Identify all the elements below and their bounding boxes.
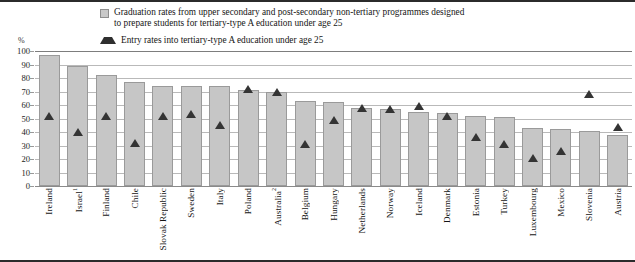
x-axis-label-turkey: Turkey [491,188,518,215]
x-axis-label-chile: Chile [121,188,148,208]
marker-entry-rate[interactable] [329,116,339,124]
marker-entry-rate[interactable] [130,139,140,147]
bar-graduation-rate[interactable] [67,66,88,186]
x-axis-label-israel: Israel1 [64,188,91,212]
y-axis-tick-dash-60 [29,105,34,106]
y-axis-tick-dash-50 [29,119,34,120]
bar-column[interactable] [292,51,319,186]
marker-entry-rate[interactable] [101,112,111,120]
y-axis-tick-dash-40 [29,132,34,133]
bar-graduation-rate[interactable] [607,135,628,186]
legend-label-entry-rates: Entry rates into tertiary-type A educati… [121,35,323,46]
marker-entry-rate[interactable] [73,128,83,136]
y-axis-tick-dash-10 [29,173,34,174]
bar-graduation-rate[interactable] [550,129,571,186]
x-axis-label-ireland: Ireland [36,188,63,215]
bar-column[interactable] [491,51,518,186]
legend-label-graduation-rates-line1: Graduation rates from upper secondary an… [114,7,464,17]
marker-entry-rate[interactable] [272,88,282,96]
bar-graduation-rate[interactable] [465,116,486,186]
bar-column[interactable] [235,51,262,186]
x-axis-label-italy: Italy [206,188,233,205]
bar-column[interactable] [149,51,176,186]
gridline-0: 0 [35,186,632,187]
y-axis-tick-dash-100 [29,51,34,52]
bar-column[interactable] [263,51,290,186]
x-axis-label-slovenia: Slovenia [576,188,603,221]
marker-entry-rate[interactable] [186,110,196,118]
x-axis-label-estonia: Estonia [462,188,489,216]
marker-entry-rate[interactable] [357,104,367,112]
x-axis-labels: IrelandIsrael1FinlandChileSlovak Republi… [35,188,632,262]
bar-column[interactable] [519,51,546,186]
chart-container: Graduation rates from upper secondary an… [0,0,635,262]
x-axis-label-norway: Norway [377,188,404,218]
bar-graduation-rate[interactable] [351,108,372,186]
bar-graduation-rate[interactable] [152,86,173,186]
bar-column[interactable] [377,51,404,186]
bar-column[interactable] [206,51,233,186]
marker-entry-rate[interactable] [471,133,481,141]
bar-column[interactable] [178,51,205,186]
y-axis-tick-dash-90 [29,65,34,66]
marker-entry-rate[interactable] [499,140,509,148]
bar-graduation-rate[interactable] [39,55,60,186]
x-axis-label-luxembourg: Luxembourg [519,188,546,236]
x-axis-label-belgium: Belgium [292,188,319,220]
bar-swatch-icon [100,9,109,18]
marker-entry-rate[interactable] [556,147,566,155]
bar-column[interactable] [36,51,63,186]
y-axis-tick-dash-0 [29,186,34,187]
x-axis-label-hungary: Hungary [320,188,347,221]
bar-column[interactable] [93,51,120,186]
bar-graduation-rate[interactable] [579,131,600,186]
chart-legend: Graduation rates from upper secondary an… [100,7,620,46]
bar-column[interactable] [320,51,347,186]
bar-column[interactable] [604,51,631,186]
bar-graduation-rate[interactable] [124,82,145,186]
bar-graduation-rate[interactable] [437,113,458,186]
bar-graduation-rate[interactable] [408,112,429,186]
marker-entry-rate[interactable] [613,123,623,131]
bar-graduation-rate[interactable] [380,109,401,186]
legend-entry-entry-rates: Entry rates into tertiary-type A educati… [100,35,620,46]
y-axis-unit-label: % [18,36,25,45]
x-axis-label-sweden: Sweden [178,188,205,218]
legend-entry-graduation-rates: Graduation rates from upper secondary an… [100,7,620,29]
bar-graduation-rate[interactable] [266,92,287,187]
bar-column[interactable] [121,51,148,186]
bar-column[interactable] [434,51,461,186]
marker-entry-rate[interactable] [385,105,395,113]
bar-column[interactable] [576,51,603,186]
top-divider-rule [0,0,635,2]
bar-column[interactable] [462,51,489,186]
bar-graduation-rate[interactable] [181,86,202,186]
marker-entry-rate[interactable] [44,112,54,120]
bar-column[interactable] [64,51,91,186]
marker-entry-rate[interactable] [528,154,538,162]
marker-entry-rate[interactable] [414,102,424,110]
bar-graduation-rate[interactable] [209,86,230,186]
marker-entry-rate[interactable] [158,112,168,120]
y-axis-tick-dash-30 [29,146,34,147]
marker-entry-rate[interactable] [584,90,594,98]
triangle-swatch-icon [100,37,116,44]
x-axis-label-poland: Poland [235,188,262,214]
plot-area: 1009080706050403020100 [35,51,632,186]
y-axis-tick-dash-80 [29,78,34,79]
x-axis-label-finland: Finland [93,188,120,217]
marker-entry-rate[interactable] [300,140,310,148]
marker-entry-rate[interactable] [442,112,452,120]
bar-column[interactable] [348,51,375,186]
marker-entry-rate[interactable] [215,121,225,129]
bars-group [35,51,632,186]
x-axis-label-slovak-republic: Slovak Republic [149,188,176,251]
x-axis-label-denmark: Denmark [434,188,461,223]
bar-graduation-rate[interactable] [96,75,117,186]
bar-column[interactable] [405,51,432,186]
bar-column[interactable] [547,51,574,186]
marker-entry-rate[interactable] [243,85,253,93]
y-axis-tick-dash-70 [29,92,34,93]
bar-graduation-rate[interactable] [494,117,515,186]
bar-graduation-rate[interactable] [238,90,259,186]
